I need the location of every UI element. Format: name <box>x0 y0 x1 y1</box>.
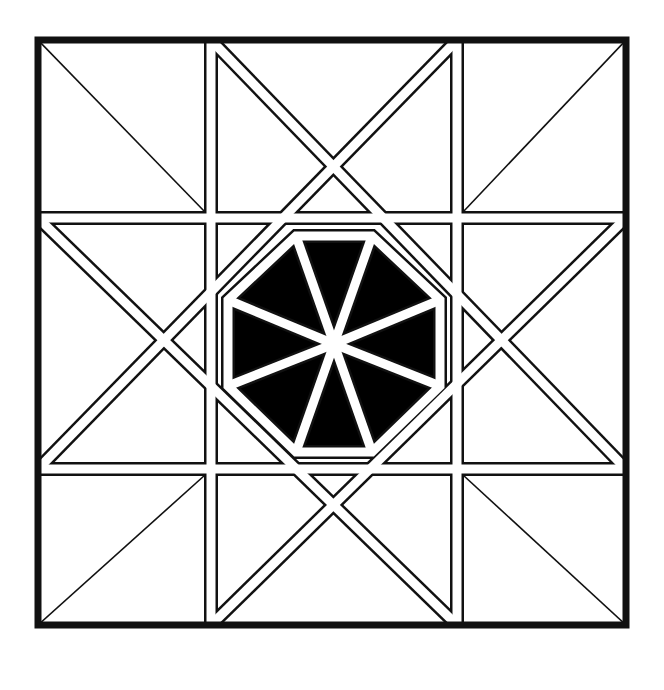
corner-diagonal-bl <box>38 475 205 625</box>
corner-diagonal-br <box>463 475 626 625</box>
pattern-bands <box>30 30 640 640</box>
quilt-block-artwork <box>0 0 664 690</box>
corner-diagonal-tl <box>38 40 205 212</box>
quilt-pattern-svg <box>0 0 664 690</box>
corner-diagonal-tr <box>463 40 626 212</box>
